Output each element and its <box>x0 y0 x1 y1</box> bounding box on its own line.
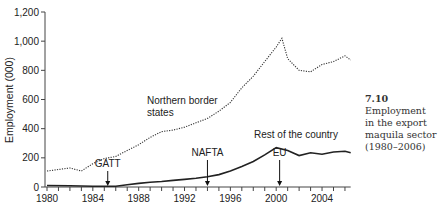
y-axis: 02004006008001,0001,200 <box>14 7 45 193</box>
x-tick-label: 2000 <box>265 193 288 204</box>
y-tick-label: 200 <box>22 152 39 163</box>
rest-of-country-label: Rest of the country <box>254 129 338 140</box>
gatt-marker: GATT <box>95 158 121 186</box>
nafta-label: NAFTA <box>191 147 223 158</box>
northern-label-line1: Northern border <box>147 95 218 106</box>
northern-label-line2: states <box>147 107 174 118</box>
x-tick-label: 1996 <box>219 193 242 204</box>
y-tick-label: 600 <box>22 94 39 105</box>
nafta-marker: NAFTA <box>191 147 223 186</box>
y-axis-label: Employment (000) <box>3 57 15 143</box>
y-tick-label: 1,000 <box>14 36 39 47</box>
eu-marker: EU <box>273 147 287 186</box>
figure-number: 7.10 <box>365 93 388 104</box>
x-tick-label: 2004 <box>311 193 334 204</box>
x-tick-label: 1984 <box>82 193 105 204</box>
figure-caption: 7.10 Employment in the export maquila se… <box>365 93 437 153</box>
x-tick-label: 1992 <box>173 193 196 204</box>
y-tick-label: 0 <box>33 182 39 193</box>
gatt-label: GATT <box>95 158 121 169</box>
x-tick-label: 1980 <box>36 193 59 204</box>
eu-label: EU <box>273 147 287 158</box>
y-tick-label: 1,200 <box>14 7 39 18</box>
x-axis: 1980198419881992199620002004 <box>36 187 351 204</box>
y-tick-label: 800 <box>22 65 39 76</box>
x-tick-label: 1988 <box>128 193 151 204</box>
figure-caption-text: Employment in the export maquila sector … <box>365 105 437 152</box>
y-tick-label: 400 <box>22 123 39 134</box>
